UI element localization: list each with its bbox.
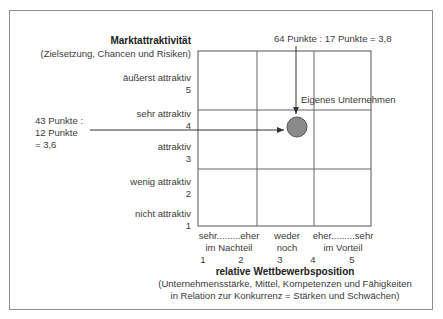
y-level-4-value: 4	[186, 120, 191, 131]
x-group-1-line1: sehr.........eher	[194, 230, 264, 241]
left-annotation-line3: = 3,6	[35, 139, 56, 150]
left-annotation-line2: 12 Punkte	[35, 127, 78, 138]
x-tick-2: 2	[236, 254, 246, 265]
y-level-1-label: nicht attraktiv	[135, 208, 191, 219]
x-tick-1: 1	[198, 254, 208, 265]
y-level-2-value: 2	[186, 188, 191, 199]
y-level-1-value: 1	[186, 220, 191, 231]
x-axis-subtitle-line1: (Unternehmensstärke, Mittel, Kompetenzen…	[120, 278, 443, 289]
y-level-4-label: sehr attraktiv	[137, 108, 191, 119]
x-axis-subtitle-line2: in Relation zur Konkurrenz = Stärken und…	[120, 290, 443, 301]
company-point-marker	[287, 117, 307, 137]
y-level-5-value: 5	[186, 84, 191, 95]
y-axis-subtitle: (Zielsetzung, Chancen und Risiken)	[41, 48, 192, 59]
x-group-3-line2: im Vorteil	[308, 242, 378, 253]
x-group-2-line1: weder	[262, 230, 312, 241]
x-axis-title: relative Wettbewerbsposition	[140, 266, 430, 277]
y-level-5-label: äußerst attraktiv	[123, 72, 191, 83]
y-level-2-label: wenig attraktiv	[130, 176, 191, 187]
x-tick-5: 5	[347, 254, 357, 265]
x-group-3-line1: eher.........sehr	[308, 230, 378, 241]
y-level-3-value: 3	[186, 153, 191, 164]
grid-border	[198, 51, 371, 226]
x-group-1-line2: im Nachteil	[194, 242, 264, 253]
top-annotation: 64 Punkte : 17 Punkte = 3,8	[274, 33, 392, 44]
x-tick-3: 3	[275, 254, 285, 265]
left-annotation-line1: 43 Punkte :	[35, 115, 83, 126]
point-label: Eigenes Unternehmen	[301, 94, 396, 105]
y-axis-title: Marktattraktivität	[110, 35, 191, 46]
x-tick-4: 4	[308, 254, 318, 265]
y-level-3-label: attraktiv	[158, 141, 191, 152]
x-group-2-line2: noch	[262, 242, 312, 253]
